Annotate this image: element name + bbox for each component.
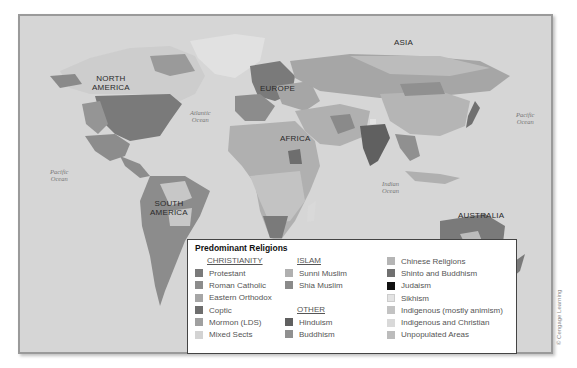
legend-label: Indigenous (mostly animism) (401, 306, 503, 315)
legend-label: Sunni Muslim (299, 269, 347, 278)
swatch-roman-catholic (195, 281, 203, 289)
legend-column-other-religions: Chinese Religions Shinto and Buddhism Ju… (387, 255, 503, 341)
label-indian-ocean: Indian Ocean (382, 180, 399, 194)
label-asia: ASIA (394, 38, 413, 47)
legend-item: Indigenous (mostly animism) (387, 304, 503, 316)
label-north-america: NORTH AMERICA (92, 74, 130, 92)
legend-label: Mormon (LDS) (209, 318, 261, 327)
legend-label: Shia Muslim (299, 281, 343, 290)
legend-label: Judaism (401, 281, 431, 290)
label-pacific-ocean-east: Pacific Ocean (516, 111, 534, 125)
legend-label: Indigenous and Christian (401, 318, 490, 327)
swatch-chinese-religions (387, 257, 395, 265)
swatch-hinduism (285, 318, 293, 326)
legend-label: Coptic (209, 306, 232, 315)
swatch-buddhism (285, 330, 293, 338)
legend-label: Protestant (209, 269, 245, 278)
legend-column-christianity: CHRISTIANITY Protestant Roman Catholic E… (195, 255, 272, 341)
legend-label: Sikhism (401, 294, 429, 303)
legend-label: Unpopulated Areas (401, 330, 469, 339)
label-pacific-ocean-west: Pacific Ocean (50, 168, 68, 182)
legend-item: Eastern Orthodox (195, 292, 272, 304)
legend-item: Protestant (195, 267, 272, 279)
label-south-america: SOUTH AMERICA (150, 199, 188, 217)
legend-header-other: OTHER (285, 304, 347, 316)
swatch-sunni (285, 269, 293, 277)
legend-header-islam: ISLAM (285, 255, 347, 267)
swatch-indigenous (387, 306, 395, 314)
swatch-eastern-orthodox (195, 294, 203, 302)
legend-label: Shinto and Buddhism (401, 269, 477, 278)
copyright-credit: © Cengage Learning (556, 290, 562, 345)
legend-item: Shia Muslim (285, 279, 347, 291)
swatch-shinto-buddhism (387, 269, 395, 277)
legend-item: Chinese Religions (387, 255, 503, 267)
legend-label: Mixed Sects (209, 330, 253, 339)
swatch-shia (285, 281, 293, 289)
legend-item: Mormon (LDS) (195, 316, 272, 328)
map-legend: Predominant Religions CHRISTIANITY Prote… (187, 239, 517, 354)
legend-label: Eastern Orthodox (209, 293, 272, 302)
legend-label: Hinduism (299, 318, 332, 327)
legend-item: Indigenous and Christian (387, 316, 503, 328)
legend-item: Judaism (387, 280, 503, 292)
legend-label: Roman Catholic (209, 281, 266, 290)
legend-item: Roman Catholic (195, 279, 272, 291)
legend-item: Hinduism (285, 316, 347, 328)
swatch-protestant (195, 269, 203, 277)
swatch-coptic (195, 306, 203, 314)
legend-item: Buddhism (285, 328, 347, 340)
swatch-indigenous-christian (387, 319, 395, 327)
swatch-mixed-sects (195, 331, 203, 339)
legend-item: Sunni Muslim (285, 267, 347, 279)
legend-item: Shinto and Buddhism (387, 267, 503, 279)
swatch-unpopulated (387, 331, 395, 339)
legend-title: Predominant Religions (195, 243, 288, 253)
legend-item: Sikhism (387, 292, 503, 304)
swatch-sikhism (387, 294, 395, 302)
label-africa: AFRICA (280, 134, 311, 143)
legend-column-islam-other: ISLAM Sunni Muslim Shia Muslim OTHER Hin… (285, 255, 347, 340)
swatch-judaism (387, 282, 395, 290)
legend-label: Chinese Religions (401, 257, 465, 266)
legend-item: Mixed Sects (195, 328, 272, 340)
label-europe: EUROPE (260, 84, 295, 93)
legend-label: Buddhism (299, 330, 335, 339)
legend-item: Coptic (195, 304, 272, 316)
swatch-mormon (195, 318, 203, 326)
legend-header-christianity: CHRISTIANITY (195, 255, 272, 267)
label-australia: AUSTRALIA (458, 211, 504, 220)
label-atlantic-ocean: Atlantic Ocean (190, 109, 211, 123)
legend-item: Unpopulated Areas (387, 329, 503, 341)
